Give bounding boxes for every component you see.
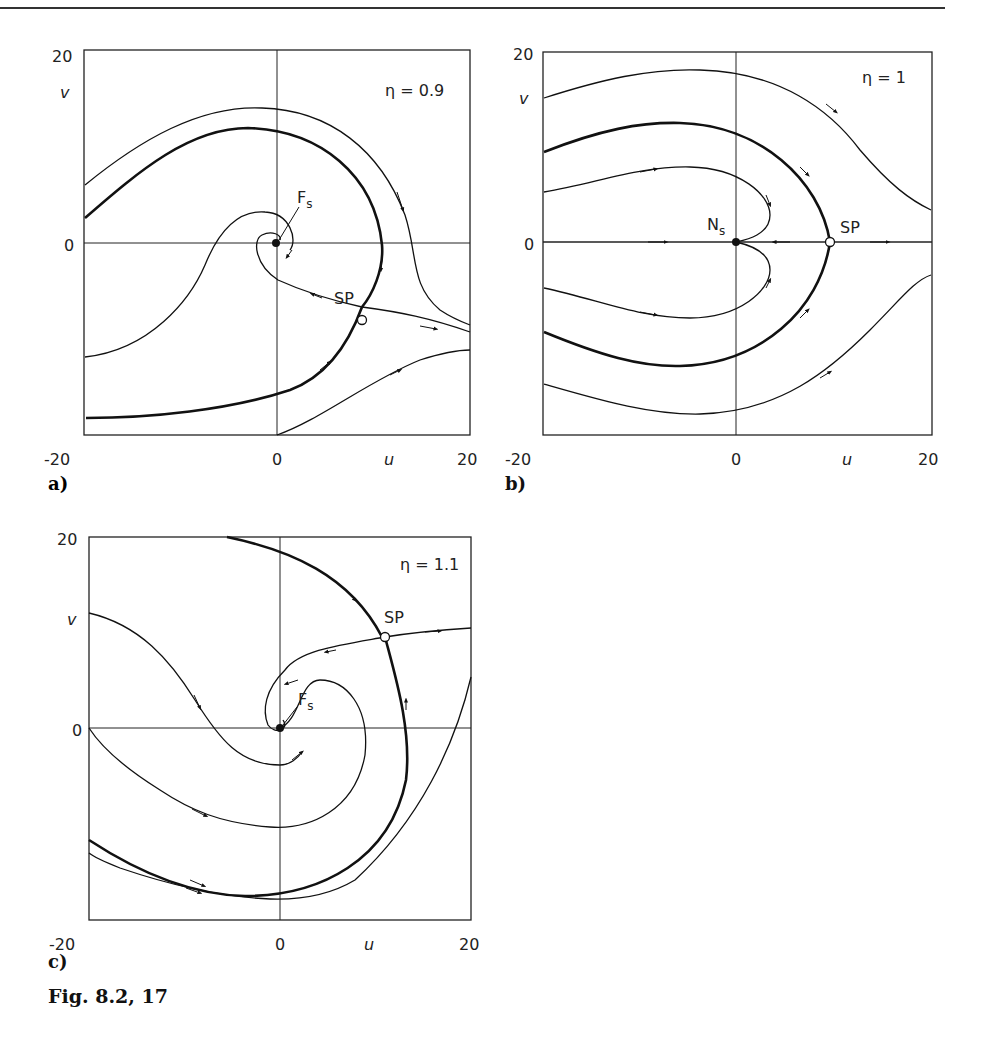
v-axis-label: v: [519, 89, 529, 108]
u-axis-label: u: [842, 450, 852, 469]
tick-u-0: 0: [731, 450, 741, 469]
fs-label: Fs: [298, 690, 313, 713]
v-axis-label: v: [67, 610, 77, 629]
u-axis-label: u: [384, 450, 394, 469]
panel-c: 20 0 -20 0 20 u v η = 1.1 F: [49, 530, 479, 954]
fs-label: Fs: [297, 188, 312, 211]
tick-u-neg20: -20: [505, 450, 531, 469]
tick-v-20: 20: [52, 47, 72, 66]
panel-a: 20 0 -20 0 20 u v η = 0.9 Fs SP: [44, 47, 477, 469]
tick-u-0: 0: [272, 450, 282, 469]
u-axis-label: u: [364, 935, 374, 954]
eta-label: η = 1.1: [400, 555, 459, 574]
panel-c-tag: c): [48, 951, 67, 972]
panel-a-tag: a): [48, 473, 68, 494]
saddle-point: [358, 316, 367, 325]
tick-v-0: 0: [64, 236, 74, 255]
tick-v-0: 0: [524, 235, 534, 254]
sp-label: SP: [384, 608, 404, 627]
focus-point: [276, 724, 284, 732]
panel-b: 20 0 -20 0 20 u v η = 1 Ns: [505, 45, 938, 469]
node-point: [732, 238, 740, 246]
tick-v-20: 20: [513, 45, 533, 64]
phase-portraits-figure: 20 0 -20 0 20 u v η = 0.9 Fs SP: [0, 0, 983, 1045]
sp-label: SP: [334, 289, 354, 308]
tick-u-20: 20: [459, 935, 479, 954]
tick-v-0: 0: [72, 721, 82, 740]
tick-u-20: 20: [918, 450, 938, 469]
saddle-point: [826, 238, 835, 247]
tick-u-0: 0: [275, 935, 285, 954]
figure-caption: Fig. 8.2, 17: [48, 985, 168, 1007]
eta-label: η = 1: [862, 68, 906, 87]
v-axis-label: v: [60, 83, 70, 102]
sp-label: SP: [840, 218, 860, 237]
eta-label: η = 0.9: [385, 81, 444, 100]
panel-b-tag: b): [505, 473, 526, 494]
tick-u-neg20: -20: [44, 450, 70, 469]
tick-v-20: 20: [57, 530, 77, 549]
tick-u-20: 20: [457, 450, 477, 469]
focus-point: [272, 239, 280, 247]
saddle-point: [381, 633, 390, 642]
ns-label: Ns: [707, 215, 725, 238]
